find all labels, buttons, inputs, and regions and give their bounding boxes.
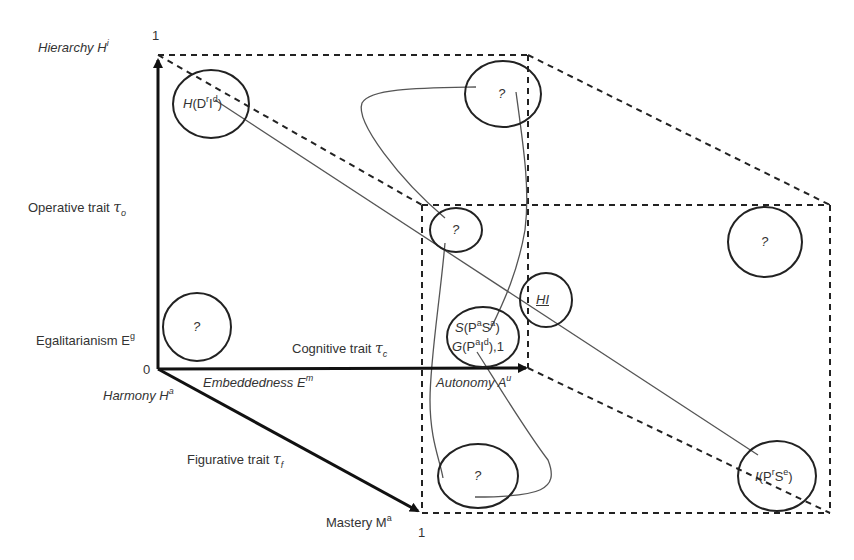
node-sup: e: [783, 467, 788, 477]
operative-trait-sub: o: [121, 208, 126, 218]
autonomy-axis-label: Autonomy Au: [436, 375, 511, 392]
harmony-label-sup: a: [169, 386, 174, 396]
hierarchy-label-text: Hierarchy H: [38, 40, 107, 55]
hierarchy-node: H(DrId): [183, 96, 222, 113]
figurative-trait-label: Figurative trait τf: [187, 452, 283, 469]
node-text: ),1: [489, 339, 504, 354]
node-sup: d: [484, 337, 489, 347]
cognitive-trait-sub: c: [383, 349, 388, 359]
embeddedness-label-text: Embeddedness E: [203, 375, 306, 390]
node-sup: d: [213, 94, 218, 104]
tau-symbol: τ: [375, 340, 383, 356]
tau-symbol: τ: [113, 199, 121, 215]
embeddedness-label-sup: m: [306, 373, 314, 383]
diagram-graphics: [0, 0, 854, 560]
sg-node-line1: S(PaSa): [455, 320, 500, 337]
operative-trait-label: Operative trait τo: [28, 200, 126, 217]
tau-symbol: τ: [273, 451, 281, 467]
node-sup: a: [477, 318, 482, 328]
node-sup: a: [475, 337, 480, 347]
top-unknown-node: ?: [498, 86, 505, 101]
connection-lines: [215, 100, 758, 455]
vertical-axis-max-tick: 1: [152, 28, 159, 43]
node-text: (P: [462, 339, 475, 354]
node-text: (P: [759, 469, 772, 484]
cognitive-trait-label: Cognitive trait τc: [292, 341, 387, 358]
node-main-letter: G: [452, 339, 462, 354]
right-unknown-node: ?: [761, 234, 768, 249]
node-text: (D: [192, 96, 206, 111]
egalitarianism-axis-label: Egalitarianism Eg: [36, 333, 135, 350]
node-text: ): [218, 96, 222, 111]
figurative-trait-text: Figurative trait: [187, 452, 269, 467]
hierarchy-axis-label: Hierarchy Hi: [38, 40, 109, 57]
node-text: ): [788, 469, 792, 484]
mastery-label-text: Mastery M: [326, 515, 387, 530]
harmony-axis-label: Harmony Ha: [103, 388, 174, 405]
node-main-letter: H: [183, 96, 192, 111]
cognitive-trait-text: Cognitive trait: [292, 341, 371, 356]
egalitarianism-label-text: Egalitarianism E: [36, 333, 130, 348]
horizontal-axis: [158, 368, 526, 369]
node-sup: r: [206, 94, 209, 104]
sg-node-line2: G(PaId),1: [452, 339, 504, 356]
node-main-letter: S: [455, 320, 464, 335]
autonomy-label-text: Autonomy A: [436, 375, 506, 390]
figurative-trait-sub: f: [281, 460, 284, 470]
egalitarian-unknown-node: ?: [193, 319, 200, 334]
node-text: (P: [464, 320, 477, 335]
operative-unknown-node: ?: [452, 222, 459, 237]
hierarchy-label-sup: i: [107, 38, 109, 48]
node-text: S: [775, 469, 784, 484]
node-ellipses: [163, 61, 816, 511]
individual-node: I(PrSe): [755, 469, 793, 486]
sg-node-ellipse: [447, 307, 519, 367]
autonomy-label-sup: u: [506, 373, 511, 383]
mastery-label-sup: a: [387, 513, 392, 523]
embeddedness-axis-label: Embeddedness Em: [203, 375, 313, 392]
origin-label: 0: [143, 362, 150, 377]
value-dimensions-diagram: 1 Hierarchy Hi Operative trait τo Egalit…: [0, 0, 854, 560]
harmony-label-text: Harmony H: [103, 388, 169, 403]
mastery-axis-label: Mastery Ma: [326, 515, 392, 532]
node-sup: a: [490, 318, 495, 328]
operative-trait-text: Operative trait: [28, 200, 110, 215]
hi-node: HI: [536, 292, 549, 307]
egalitarianism-label-sup: g: [130, 331, 135, 341]
diagonal-axis-max-tick: 1: [418, 525, 425, 540]
bottom-unknown-node: ?: [474, 468, 481, 483]
node-sup: r: [772, 467, 775, 477]
node-text: ): [495, 320, 499, 335]
